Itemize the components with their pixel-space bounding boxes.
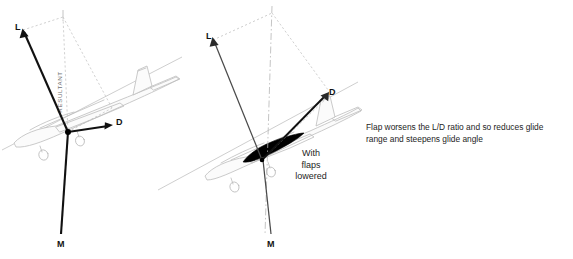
weight-label: M [267,239,275,249]
nose-gear-wheel [37,148,49,161]
flaps-note-line-1: With [278,148,344,160]
drag-label: D [116,117,123,127]
resultant-axis [265,6,272,235]
construction-line-drag-side [272,13,331,94]
force-origin-dot [260,158,265,163]
caption-text: Flap worsens the L/D ratio and so reduce… [366,122,566,145]
construction-line-lift-top [213,13,272,40]
clean-configuration-panel: RESULTANT L D M [2,10,182,249]
weight-label: M [57,239,65,249]
flaps-lowered-panel: L D M [158,6,362,249]
lift-vector-shaft [214,41,262,160]
caption-line-2: range and steepens glide angle [366,134,566,146]
flaps-note-line-3: lowered [278,171,344,183]
construction-line-lift-top [23,17,63,30]
construction-line-drag-side [63,17,112,108]
main-gear-wheel [74,135,86,148]
caption-line-1: Flap worsens the L/D ratio and so reduce… [366,122,566,134]
flaps-note-line-2: flaps [278,160,344,172]
weight-vector-shaft [61,132,68,234]
force-origin-dot [65,129,71,135]
nose-gear-wheel [228,181,240,194]
lift-label: L [206,31,212,41]
aerodynamics-diagram: RESULTANT L D M [0,0,573,259]
drag-arrowhead [105,122,114,129]
lift-label: L [15,22,21,32]
drag-label: D [329,87,336,97]
flaps-lowered-note: With flaps lowered [278,148,344,183]
